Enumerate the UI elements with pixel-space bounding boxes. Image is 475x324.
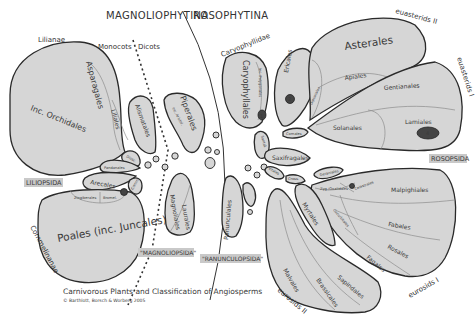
circle-canell <box>172 153 178 159</box>
order-pandanales: Pandanales <box>104 166 125 170</box>
order-malpighiales: Malpighiales <box>391 186 428 194</box>
label-ranunculopsida: "RANUNCULOPSIDA" <box>200 254 263 263</box>
circle-buxal <box>245 165 251 171</box>
circle-amborella <box>213 132 219 138</box>
marker-2-label: 2 <box>288 96 291 102</box>
order-inc-polygonales: Inc. Polygonales <box>258 68 262 97</box>
circle-acorus <box>145 162 151 168</box>
order-caryophyllales: Caryophyllales <box>241 60 250 119</box>
circle-chloranthales <box>205 158 215 169</box>
marker-poales <box>121 189 128 196</box>
order-crossosomatales: Cross. <box>288 177 299 181</box>
order-solanales: Solanales <box>333 124 362 131</box>
svg-text:LILIOPSIDA: LILIOPSIDA <box>26 179 62 187</box>
order-lamiales: Lamiales <box>405 118 432 125</box>
svg-text:"MAGNOLIOPSIDA": "MAGNOLIOPSIDA" <box>140 249 196 256</box>
angiosperm-classification-diagram: MAGNOLIOPHYTINA ROSOPHYTINA Lilianae Mon… <box>0 0 475 324</box>
order-saxifragales: Saxifragales <box>272 154 309 162</box>
circle-sabiac <box>248 210 253 215</box>
circle-troch <box>254 172 260 178</box>
clade-eurosids-1: eurosids I <box>407 276 440 300</box>
svg-text:ROSOPSIDA: ROSOPSIDA <box>431 155 470 163</box>
svg-text:"RANUNCULOPSIDA": "RANUNCULOPSIDA" <box>202 255 263 262</box>
order-cornales: Cornales <box>286 132 302 136</box>
order-bromeliaceae: Bromel. <box>103 196 117 200</box>
circle-cerat <box>153 156 159 162</box>
caption-title: Carnivorous Plants and Classification of… <box>63 287 262 296</box>
blob-proteales <box>243 183 256 207</box>
order-zygophyllales-oxalidales: Zyg./Oxalidales <box>320 187 348 191</box>
caption-credit: © Barthlott, Borsch & Worberg 2005 <box>63 298 145 303</box>
header-rosophytina: ROSOPHYTINA <box>193 10 268 21</box>
circle-nymph <box>205 147 211 153</box>
order-zingiberales: Zingiberales <box>74 196 96 200</box>
clade-dicots: Dicots <box>138 43 160 51</box>
circle-austrob <box>215 150 220 155</box>
marker-1-label: 1 <box>260 113 263 119</box>
monocot-dicot-divider <box>128 40 168 305</box>
marker-4-label: 4 <box>426 130 429 136</box>
clade-monocots: Monocots <box>98 43 132 51</box>
blob-lilianae <box>10 42 128 175</box>
label-rosopsida: ROSOPSIDA <box>429 154 470 163</box>
label-liliopsida: LILIOPSIDA <box>24 178 63 187</box>
circle-chlor <box>162 164 168 170</box>
label-magnoliopsida: "MAGNOLIOPSIDA" <box>138 248 196 257</box>
